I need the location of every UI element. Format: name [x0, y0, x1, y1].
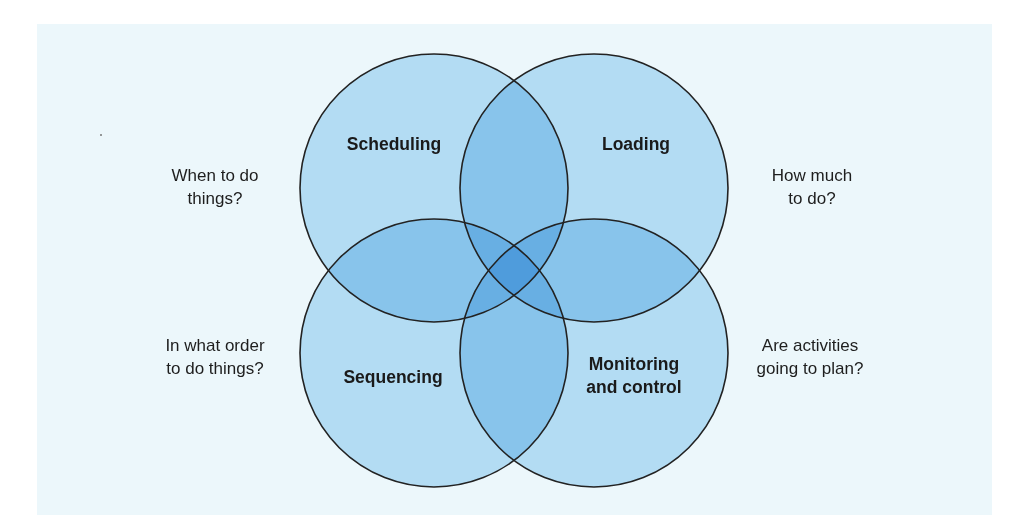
venn-diagram: [0, 0, 1020, 529]
question-loading-line2: to do?: [772, 187, 852, 210]
question-scheduling: When to do things?: [172, 164, 259, 210]
question-monitoring: Are activities going to plan?: [757, 334, 864, 380]
label-monitoring-and-control: Monitoring and control: [586, 353, 681, 399]
question-monitoring-line2: going to plan?: [757, 357, 864, 380]
circle-fills: [300, 54, 728, 487]
question-loading-line1: How much: [772, 164, 852, 187]
label-monitoring-line1: Monitoring: [586, 353, 681, 376]
question-monitoring-line1: Are activities: [757, 334, 864, 357]
question-scheduling-line2: things?: [172, 187, 259, 210]
question-sequencing-line1: In what order: [165, 334, 264, 357]
question-loading: How much to do?: [772, 164, 852, 210]
question-scheduling-line1: When to do: [172, 164, 259, 187]
question-sequencing: In what order to do things?: [165, 334, 264, 380]
label-monitoring-line2: and control: [586, 376, 681, 399]
question-sequencing-line2: to do things?: [165, 357, 264, 380]
label-scheduling: Scheduling: [347, 133, 441, 156]
label-loading: Loading: [602, 133, 670, 156]
label-sequencing: Sequencing: [343, 366, 442, 389]
